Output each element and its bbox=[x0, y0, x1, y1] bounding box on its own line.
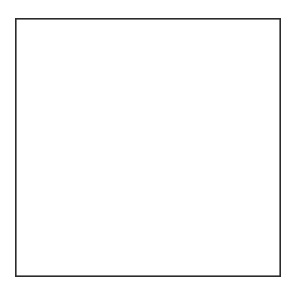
cross-section-drawing bbox=[0, 0, 297, 285]
outer-border-overlay bbox=[16, 19, 280, 276]
figure-root: Pavement / soil cross-section bbox=[0, 0, 297, 285]
